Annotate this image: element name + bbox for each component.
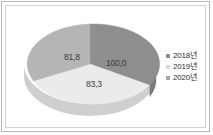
pie-data-label-2018: 100,0 — [106, 58, 126, 68]
legend-item-2019[interactable]: 2019년 — [166, 61, 213, 72]
pie-data-label-2020: 83,3 — [86, 79, 102, 89]
legend-color-swatch-icon — [166, 76, 170, 80]
legend-item-2020[interactable]: 2020년 — [166, 72, 213, 83]
chart-legend: 2018년 2019년 2020년 — [166, 50, 213, 83]
pie-top-face — [27, 24, 160, 104]
pie-chart-3d: 100,0 81,8 83,3 — [20, 18, 160, 118]
chart-screenshot: 100,0 81,8 83,3 2018년 2019년 2020년 — [0, 0, 213, 135]
legend-color-swatch-icon — [166, 65, 170, 69]
chart-plot-area: 100,0 81,8 83,3 2018년 2019년 2020년 — [6, 6, 205, 127]
legend-label-2020: 2020년 — [173, 73, 197, 83]
legend-label-2019: 2019년 — [173, 62, 197, 72]
pie-data-label-2019: 81,8 — [64, 52, 80, 62]
legend-color-swatch-icon — [166, 54, 170, 58]
pie-chart-svg — [20, 18, 160, 118]
legend-label-2018: 2018년 — [173, 51, 197, 61]
legend-item-2018[interactable]: 2018년 — [166, 50, 213, 61]
